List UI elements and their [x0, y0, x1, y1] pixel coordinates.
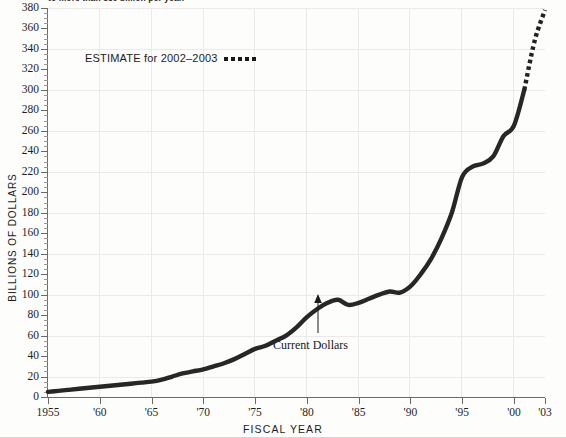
series-layer: [0, 0, 566, 438]
chart-root: to more than 350 billion per year. 02040…: [0, 0, 566, 438]
leader-arrowhead: [314, 294, 322, 303]
series-current-dollars: [48, 90, 524, 392]
series-estimate: [524, 10, 545, 90]
